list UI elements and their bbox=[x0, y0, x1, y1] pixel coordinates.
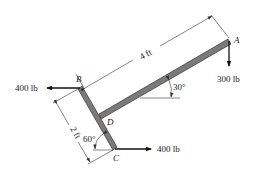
point-C-label: C bbox=[113, 153, 120, 163]
dimension-4ft-label: 4 ft bbox=[138, 47, 154, 62]
force-B-label: 400 lb bbox=[15, 83, 38, 93]
point-A-label: A bbox=[233, 35, 240, 45]
point-B-label: B bbox=[76, 74, 82, 84]
angle-60-label: 60° bbox=[83, 134, 96, 144]
force-C-label: 400 lb bbox=[157, 144, 180, 154]
frame-diagram: 4 ft 2 ft 30° 60° 400 lb 400 lb 300 lb A… bbox=[0, 0, 258, 181]
dimension-2ft-label: 2 ft bbox=[68, 125, 83, 141]
angle-30-label: 30° bbox=[173, 82, 186, 92]
point-D-label: D bbox=[106, 117, 114, 127]
beam-DA bbox=[99, 39, 231, 119]
force-A-label: 300 lb bbox=[217, 74, 240, 84]
